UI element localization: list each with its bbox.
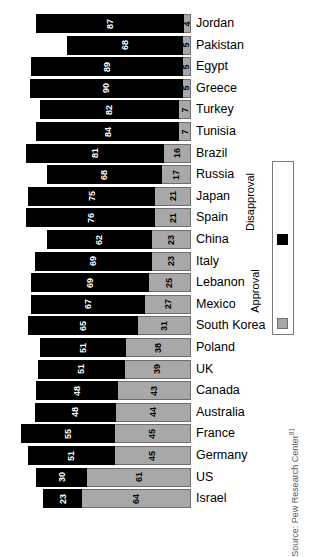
bar-row: 895 — [0, 57, 192, 76]
legend-label-approval: Approval — [249, 263, 261, 319]
bar-value-disapproval: 48 — [71, 407, 80, 417]
bar-value-disapproval: 68 — [120, 40, 129, 50]
bar-value-disapproval: 51 — [77, 364, 86, 374]
bar-row: 5139 — [0, 360, 192, 379]
category-label: France — [196, 424, 235, 443]
bar-value-disapproval: 90 — [102, 83, 111, 93]
bar-row: 685 — [0, 36, 192, 55]
bar-track: 6817 — [47, 165, 192, 184]
bar-value-disapproval: 89 — [102, 62, 111, 72]
bar-value-disapproval: 81 — [90, 148, 99, 158]
category-label: Greece — [196, 79, 237, 98]
bar-value-approval: 45 — [148, 450, 157, 460]
bar-value-approval: 7 — [180, 129, 189, 134]
bar-track: 7521 — [28, 187, 191, 206]
category-label: Lebanon — [196, 273, 245, 292]
bar-segment-disapproval: 75 — [28, 187, 156, 206]
category-label: Japan — [196, 187, 230, 206]
bar-row: 827 — [0, 100, 192, 119]
bar-segment-disapproval: 67 — [31, 295, 145, 314]
bar-segment-disapproval: 51 — [28, 446, 115, 465]
bar-segment-approval: 16 — [164, 144, 191, 163]
bar-segment-approval: 21 — [155, 208, 191, 227]
bar-value-approval: 17 — [172, 170, 181, 180]
bar-segment-approval: 45 — [115, 446, 192, 465]
bar-track: 4843 — [36, 381, 191, 400]
bar-value-approval: 31 — [160, 321, 169, 331]
legend-label-disapproval: Disapproval — [244, 169, 256, 235]
bar-row: 874 — [0, 14, 192, 33]
bar-row: 4843 — [0, 381, 192, 400]
bar-value-approval: 39 — [153, 364, 162, 374]
bar-value-disapproval: 84 — [103, 126, 112, 136]
category-label: Spain — [196, 208, 228, 227]
bar-segment-approval: 31 — [138, 316, 191, 335]
bar-value-disapproval: 82 — [105, 105, 114, 115]
bar-value-approval: 25 — [165, 278, 174, 288]
bar-segment-approval: 43 — [118, 381, 191, 400]
bar-value-approval: 16 — [172, 148, 181, 158]
bar-segment-disapproval: 48 — [35, 403, 117, 422]
bar-value-approval: 5 — [183, 43, 191, 48]
category-label: Canada — [196, 381, 240, 400]
bar-segment-approval: 4 — [184, 14, 191, 33]
bar-row: 7521 — [0, 187, 192, 206]
bar-segment-disapproval: 23 — [43, 489, 82, 508]
bar-value-disapproval: 68 — [100, 170, 109, 180]
category-label: Pakistan — [196, 36, 244, 55]
bar-segment-disapproval: 84 — [36, 122, 179, 141]
legend-swatch-disapproval-icon — [277, 234, 288, 245]
bar-row: 6925 — [0, 273, 192, 292]
bar-value-disapproval: 75 — [87, 191, 96, 201]
category-label: Russia — [196, 165, 234, 184]
category-label: Germany — [196, 446, 247, 465]
bar-value-approval: 64 — [132, 494, 141, 504]
category-label: Jordan — [196, 14, 234, 33]
bar-track: 6925 — [31, 273, 191, 292]
bar-row: 6923 — [0, 252, 192, 271]
bar-track: 6223 — [47, 230, 192, 249]
bar-segment-disapproval: 68 — [67, 36, 183, 55]
bar-segment-disapproval: 82 — [40, 100, 179, 119]
bar-segment-approval: 23 — [152, 252, 191, 271]
source-note: Source: Pew Research Center81 — [288, 428, 300, 557]
bar-segment-disapproval: 87 — [36, 14, 184, 33]
bar-value-approval: 7 — [180, 107, 189, 112]
bar-segment-disapproval: 69 — [35, 252, 152, 271]
bar-track: 685 — [67, 36, 191, 55]
bar-row: 5138 — [0, 338, 192, 357]
category-label: Italy — [196, 252, 219, 271]
bar-track: 827 — [40, 100, 191, 119]
category-label: Egypt — [196, 57, 228, 76]
bar-segment-disapproval: 89 — [31, 57, 182, 76]
stacked-bar-chart: 8746858959058278478116681775217621622369… — [0, 0, 313, 557]
category-label: US — [196, 468, 213, 487]
chart-plot-area: 8746858959058278478116681775217621622369… — [0, 12, 192, 510]
bar-segment-approval: 45 — [115, 424, 192, 443]
category-label: Australia — [196, 403, 245, 422]
bar-row: 6727 — [0, 295, 192, 314]
bar-track: 3061 — [36, 468, 191, 487]
bar-track: 2364 — [43, 489, 191, 508]
bar-track: 874 — [36, 14, 191, 33]
bar-segment-approval: 61 — [87, 468, 191, 487]
bar-value-disapproval: 62 — [95, 234, 104, 244]
bar-value-approval: 23 — [166, 256, 175, 266]
bar-segment-approval: 44 — [116, 403, 191, 422]
bar-value-approval: 38 — [154, 342, 163, 352]
bar-track: 5145 — [28, 446, 191, 465]
bar-value-approval: 61 — [134, 472, 143, 482]
bar-track: 6727 — [31, 295, 191, 314]
bar-value-disapproval: 51 — [79, 342, 88, 352]
bar-segment-approval: 25 — [149, 273, 192, 292]
bar-row: 8116 — [0, 144, 192, 163]
bar-value-approval: 45 — [148, 429, 157, 439]
bar-value-disapproval: 55 — [63, 429, 72, 439]
bar-row: 6817 — [0, 165, 192, 184]
bar-row: 5545 — [0, 424, 192, 443]
bar-track: 5138 — [40, 338, 191, 357]
bar-segment-approval: 5 — [183, 79, 192, 98]
bar-segment-disapproval: 90 — [30, 79, 183, 98]
legend-swatch-approval-icon — [277, 318, 288, 329]
bar-value-disapproval: 51 — [67, 450, 76, 460]
